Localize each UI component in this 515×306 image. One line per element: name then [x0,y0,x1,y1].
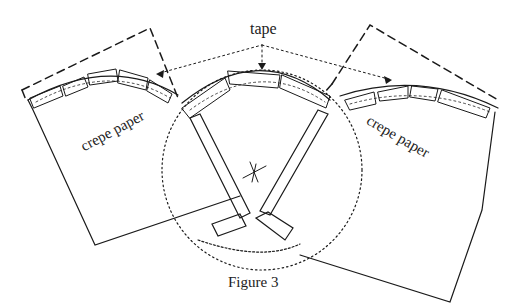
spokes [190,110,328,252]
right-crepe-paper-panel [300,85,498,302]
figure-3-diagram [0,0,515,306]
left-crepe-paper-panel [28,69,240,245]
center-arc [182,71,330,118]
center-star-marker [243,162,266,182]
figure-caption: Figure 3 [228,274,278,291]
tape-label: tape [250,20,277,38]
dotted-circle [162,70,362,270]
left-dashed-outline [22,28,178,100]
